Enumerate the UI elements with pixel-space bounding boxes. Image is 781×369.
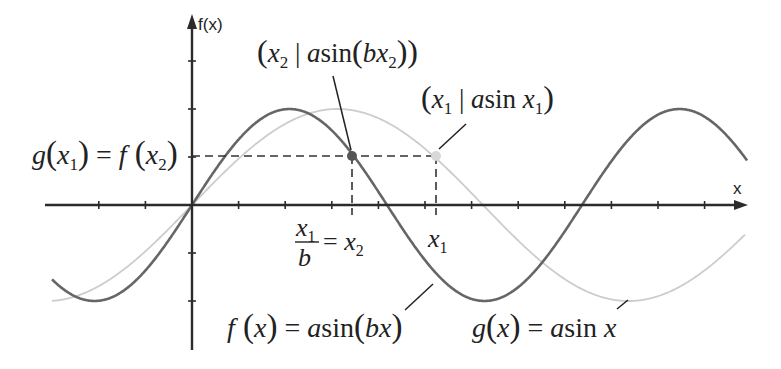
point-f-x2: [347, 151, 357, 161]
x-axis-arrow-icon: [734, 200, 748, 210]
leader-g-point: [439, 124, 466, 149]
point-g-x1: [431, 151, 441, 161]
label-x1: x1: [427, 224, 448, 256]
label-f-curve: f (x) = asin(bx): [227, 308, 402, 345]
label-g-point: (x1 | asin x1): [421, 79, 554, 118]
label-x2: x1 b = x2: [295, 213, 364, 272]
leader-f-curve: [405, 284, 433, 310]
leader-f-point: [333, 76, 351, 150]
x-axis-label: x: [733, 179, 742, 198]
label-f-point: (x2 | asin(bx2)): [257, 33, 418, 72]
y-axis-arrow-icon: [187, 14, 197, 29]
svg-text:b: b: [298, 243, 311, 272]
sine-transformation-diagram: f(x) x (x2 | asin(bx2)) (x1 | asin x1) g…: [0, 0, 781, 369]
y-axis-label: f(x): [198, 15, 223, 34]
svg-text:x1: x1: [295, 213, 316, 245]
label-g-curve: g(x) = asin x: [472, 308, 617, 345]
label-level: g(x1) = f (x2): [32, 135, 178, 174]
svg-text:= x2: = x2: [323, 227, 364, 259]
